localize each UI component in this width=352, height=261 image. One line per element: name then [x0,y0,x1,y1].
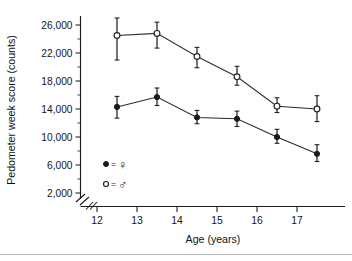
x-axis-title: Age (years) [186,233,241,245]
x-tick-label: 12 [91,215,103,226]
data-point-filled-circle [314,151,319,156]
y-tick-label: 6,000 [47,160,73,171]
data-point-filled-circle [114,104,119,109]
data-point-filled-circle [194,115,199,120]
x-tick-label: 15 [211,215,223,226]
legend-marker-filled-circle [104,162,109,167]
legend-male-icon: ♂ [118,178,127,192]
data-point-open-circle [274,103,280,109]
chart-figure: Pedometer week score (counts) 2,0006,000… [0,0,352,261]
legend-equals-female: = [111,159,116,169]
legend-female-icon: ♀ [118,158,127,172]
data-point-open-circle [114,33,120,39]
legend-marker-open-circle [104,182,109,187]
y-tick-label: 14,000 [41,104,72,115]
x-tick-label: 14 [171,215,183,226]
data-point-open-circle [234,74,240,80]
data-point-filled-circle [234,116,239,121]
y-tick-label: 10,000 [41,132,72,143]
x-tick-label: 16 [251,215,263,226]
legend-equals-male: = [111,179,116,189]
data-point-filled-circle [154,95,159,100]
y-tick-label: 22,000 [41,48,72,59]
data-point-open-circle [154,31,160,37]
data-point-filled-circle [274,134,279,139]
x-tick-label: 13 [131,215,143,226]
x-tick-label: 17 [291,215,303,226]
y-tick-label: 2,000 [47,188,73,199]
data-point-open-circle [194,54,200,60]
y-tick-label: 18,000 [41,76,72,87]
y-tick-label: 26,000 [41,20,72,31]
y-axis-title: Pedometer week score (counts) [5,35,17,185]
pedometer-week-score-line-chart: Pedometer week score (counts) 2,0006,000… [0,0,352,261]
data-point-open-circle [314,106,320,112]
